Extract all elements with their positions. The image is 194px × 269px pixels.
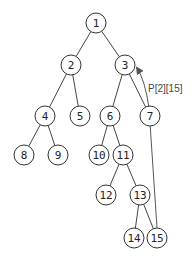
node-label: 15 — [150, 232, 163, 245]
node-label: 5 — [77, 110, 84, 123]
edge-4-8 — [29, 125, 41, 146]
tree-node-1: 1 — [86, 13, 106, 33]
edge-6-11 — [113, 125, 120, 145]
node-label: 1 — [93, 17, 100, 30]
node-label: 11 — [116, 149, 129, 162]
edge-4-9 — [48, 125, 55, 145]
tree-node-10: 10 — [89, 145, 109, 165]
node-label: 12 — [99, 189, 112, 202]
node-label: 3 — [122, 59, 129, 72]
tree-node-7: 7 — [140, 106, 160, 126]
edge-6-10 — [102, 126, 108, 146]
node-label: 4 — [42, 110, 49, 123]
node-label: 9 — [55, 149, 62, 162]
node-label: 2 — [68, 59, 75, 72]
edge-11-12 — [110, 164, 119, 186]
edge-1-2 — [76, 32, 91, 57]
node-label: 8 — [21, 149, 28, 162]
tree-node-2: 2 — [61, 55, 81, 75]
tree-node-12: 12 — [96, 185, 116, 205]
tree-node-5: 5 — [70, 106, 90, 126]
tree-node-6: 6 — [100, 106, 120, 126]
tree-diagram: P[2][15] 123456789101112131415 — [0, 0, 194, 269]
tree-node-9: 9 — [48, 145, 68, 165]
edge-11-13 — [127, 164, 136, 186]
tree-node-11: 11 — [113, 145, 133, 165]
edge-2-5 — [73, 75, 79, 106]
pointer-label: P[2][15] — [148, 83, 183, 94]
edge-13-15 — [144, 204, 154, 228]
node-label: 10 — [92, 149, 105, 162]
tree-node-14: 14 — [124, 228, 144, 248]
tree-node-3: 3 — [115, 55, 135, 75]
tree-node-15: 15 — [147, 228, 167, 248]
tree-node-13: 13 — [130, 185, 150, 205]
edge-1-3 — [102, 31, 120, 57]
tree-node-4: 4 — [35, 106, 55, 126]
edge-3-7 — [129, 74, 145, 107]
edge-2-4 — [50, 74, 67, 107]
edge-3-6 — [113, 75, 122, 107]
node-label: 14 — [127, 232, 141, 245]
edge-13-14 — [135, 205, 138, 228]
node-label: 13 — [133, 189, 146, 202]
node-label: 7 — [147, 110, 154, 123]
node-label: 6 — [107, 110, 114, 123]
tree-node-8: 8 — [14, 145, 34, 165]
